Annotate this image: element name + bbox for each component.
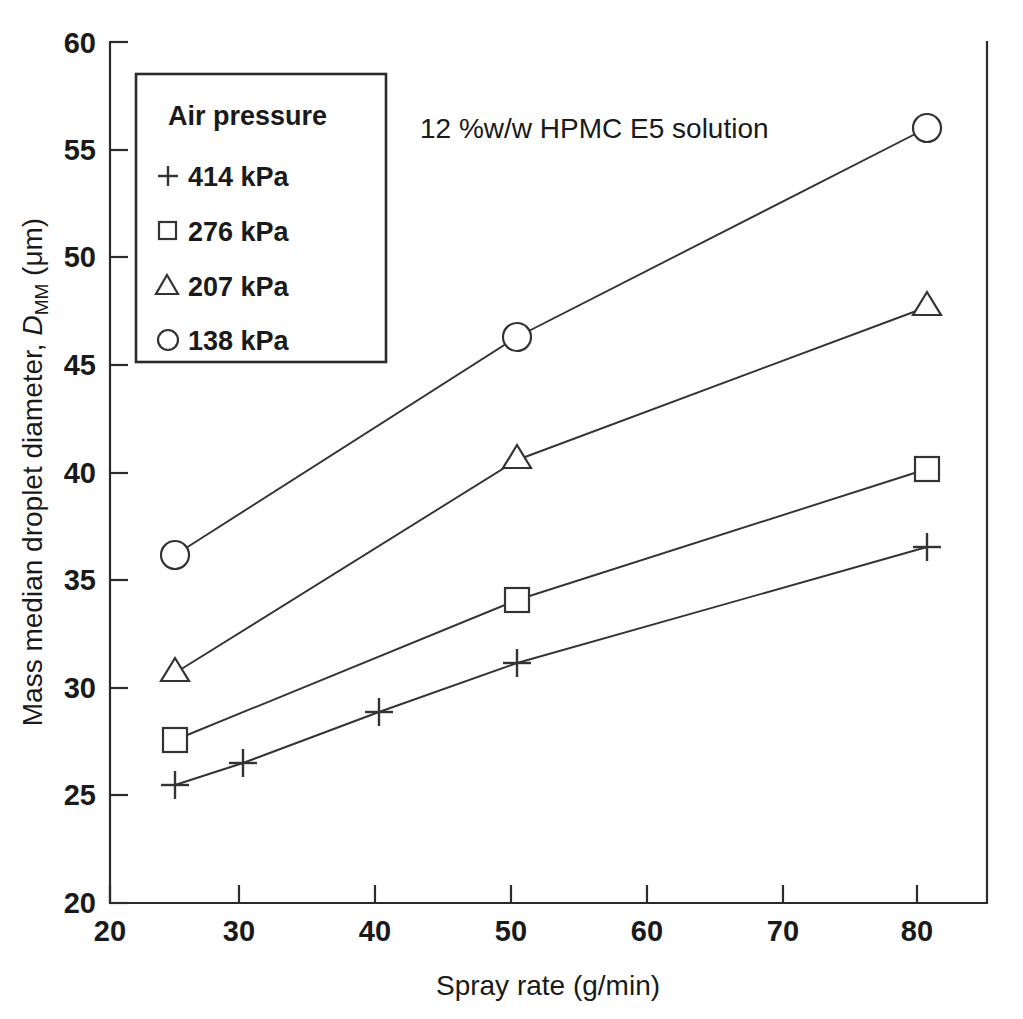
y-tick-label: 35 (64, 564, 96, 596)
y-tick-label: 55 (64, 134, 96, 166)
legend-label: 138 kPa (188, 326, 290, 356)
x-tick-label: 50 (495, 915, 527, 947)
y-axis-title-symbol: D (17, 315, 48, 335)
x-tick-label: 20 (94, 915, 126, 947)
series-414-kpa (161, 533, 941, 799)
y-tick-label: 30 (64, 672, 96, 704)
x-tick-label: 30 (223, 915, 255, 947)
y-axis-title-main: Mass median droplet diameter, (17, 336, 48, 727)
data-point-plus (365, 698, 393, 726)
y-axis-title: Mass median droplet diameter, DMM (μm) (17, 218, 52, 726)
data-point-triangle (913, 292, 941, 315)
y-tick-label: 20 (64, 887, 96, 919)
x-axis-title: Spray rate (g/min) (436, 970, 660, 1001)
chart-figure: 20 30 40 50 60 70 80 20 (0, 0, 1023, 1019)
data-point-circle (503, 323, 531, 351)
data-point-square (505, 588, 529, 612)
series-276-kpa (163, 457, 939, 752)
data-point-circle (161, 541, 189, 569)
y-tick-label: 50 (64, 241, 96, 273)
data-point-square (915, 457, 939, 481)
data-point-plus (229, 749, 257, 777)
x-tick-label: 40 (359, 915, 391, 947)
x-axis-ticks (110, 885, 917, 903)
svg-text:Mass median droplet diameter,: Mass median droplet diameter, DMM (μm) (17, 218, 52, 726)
data-point-circle (913, 114, 941, 142)
chart-annotation: 12 %w/w HPMC E5 solution (420, 113, 769, 144)
y-tick-label: 60 (64, 27, 96, 59)
legend-label: 276 kPa (188, 217, 290, 247)
y-axis-tick-labels: 20 25 30 35 40 45 50 55 60 (64, 27, 96, 919)
y-tick-label: 40 (64, 457, 96, 489)
chart-svg: 20 30 40 50 60 70 80 20 (0, 0, 1023, 1019)
data-point-plus (503, 649, 531, 677)
y-axis-title-units: (μm) (17, 218, 48, 284)
data-point-triangle (161, 658, 189, 681)
chart-canvas: 20 30 40 50 60 70 80 20 (0, 0, 1023, 1019)
y-axis-ticks (110, 42, 128, 903)
legend-label: 207 kPa (188, 272, 290, 302)
data-point-plus (161, 771, 189, 799)
x-tick-label: 60 (631, 915, 663, 947)
data-point-plus (913, 533, 941, 561)
y-axis-title-subscript: MM (31, 284, 52, 316)
legend: Air pressure 414 kPa 276 kPa 207 kPa 1 (136, 74, 386, 362)
x-tick-label: 70 (767, 915, 799, 947)
y-tick-label: 25 (64, 779, 96, 811)
legend-marker-square (159, 222, 176, 239)
legend-label: 414 kPa (188, 162, 290, 192)
x-tick-label: 80 (901, 915, 933, 947)
legend-marker-circle (158, 330, 178, 350)
data-point-square (163, 728, 187, 752)
x-axis-tick-labels: 20 30 40 50 60 70 80 (94, 915, 933, 947)
legend-title: Air pressure (168, 101, 327, 131)
y-tick-label: 45 (64, 349, 96, 381)
